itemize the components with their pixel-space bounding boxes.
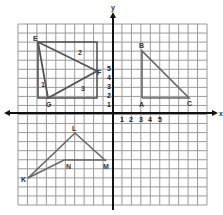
region-label-3: 3 (81, 85, 85, 92)
vertex-label-l: L (72, 125, 77, 132)
region-label-1: 1 (41, 81, 45, 88)
triangle-abc (142, 51, 189, 98)
vertex-label-e: E (33, 35, 38, 42)
x-axis-label: x (219, 110, 223, 117)
x-tick-4: 4 (148, 116, 152, 123)
y-tick-2: 2 (107, 92, 111, 99)
x-axis-left-arrow-icon (4, 110, 10, 116)
vertex-label-n: N (66, 163, 71, 170)
x-axis-arrow-icon (212, 110, 218, 116)
vertex-label-a: A (139, 101, 144, 108)
vertex-label-k: K (21, 176, 26, 183)
vertex-label-f: F (97, 69, 102, 76)
y-tick-5: 5 (107, 65, 111, 72)
y-tick-1: 1 (107, 101, 111, 108)
vertex-label-c: C (187, 100, 192, 107)
region-label-2: 2 (78, 49, 82, 56)
y-axis-arrow-icon (110, 12, 116, 18)
x-tick-1: 1 (120, 116, 124, 123)
vertex-label-b: B (139, 42, 144, 49)
x-tick-5: 5 (158, 116, 162, 123)
vertex-label-g: G (46, 101, 52, 108)
x-tick-3: 3 (139, 116, 143, 123)
x-tick-2: 2 (129, 116, 133, 123)
y-axis-label: y (111, 4, 115, 12)
triangle-klm-sides (28, 133, 106, 178)
coordinate-plane: x y 1 2 3 4 5 1 2 3 4 5 E F G 1 2 3 B A … (0, 0, 223, 215)
vertex-label-m: M (103, 163, 109, 170)
y-tick-3: 3 (107, 83, 111, 90)
y-tick-4: 4 (107, 74, 111, 81)
